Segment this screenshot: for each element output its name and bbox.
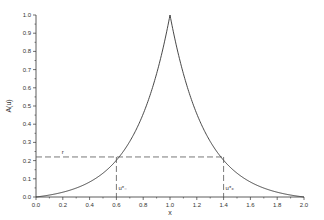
- x-tick-label: 1.6: [246, 202, 255, 208]
- y-axis-label: A(u): [5, 99, 13, 112]
- x-tick-label: 0.8: [139, 202, 148, 208]
- crossing-label: u*₋: [118, 185, 127, 191]
- axes: 0.00.20.40.60.81.01.21.41.61.82.00.00.10…: [23, 12, 309, 208]
- x-tick-label: 0.6: [112, 202, 121, 208]
- y-tick-label: 0.8: [23, 48, 32, 54]
- y-tick-label: 0.5: [23, 103, 32, 109]
- y-tick-label: 0.0: [23, 194, 32, 200]
- data-curve: [36, 15, 304, 197]
- y-tick-label: 1.0: [23, 12, 32, 18]
- y-tick-label: 0.3: [23, 139, 32, 145]
- x-tick-label: 1.2: [193, 202, 202, 208]
- x-tick-label: 1.4: [219, 202, 228, 208]
- x-axis-label: x: [168, 209, 172, 216]
- x-tick-label: 2.0: [300, 202, 309, 208]
- x-tick-label: 0.4: [85, 202, 94, 208]
- y-tick-label: 0.1: [23, 176, 32, 182]
- x-tick-label: 1.0: [166, 202, 175, 208]
- x-tick-label: 0.2: [59, 202, 68, 208]
- x-tick-label: 1.8: [273, 202, 282, 208]
- threshold-label: r: [62, 149, 64, 155]
- y-tick-label: 0.9: [23, 30, 32, 36]
- chart: 0.00.20.40.60.81.01.21.41.61.82.00.00.10…: [0, 0, 324, 220]
- y-tick-label: 0.4: [23, 121, 32, 127]
- y-tick-label: 0.7: [23, 67, 32, 73]
- y-tick-label: 0.2: [23, 158, 32, 164]
- y-tick-label: 0.6: [23, 85, 32, 91]
- crossing-label: u*₊: [226, 185, 235, 191]
- x-tick-label: 0.0: [32, 202, 41, 208]
- annotations: ru*₋u*₊: [36, 149, 234, 197]
